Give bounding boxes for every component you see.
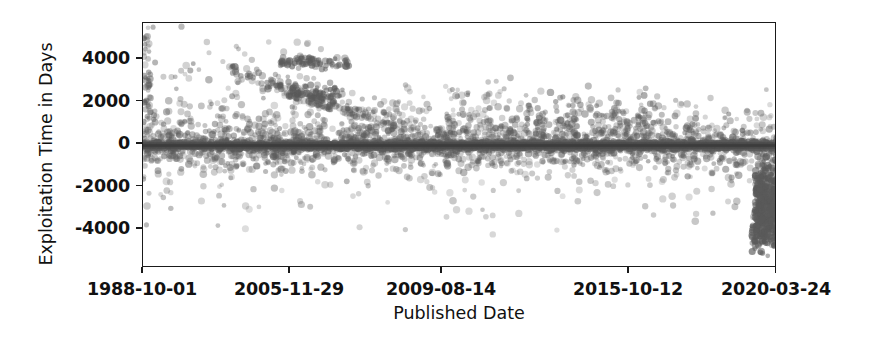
x-tick-label-2020: 2020-03-24 bbox=[721, 279, 831, 299]
plot-area bbox=[142, 22, 776, 267]
y-tick-label-0: 0 bbox=[118, 133, 130, 153]
x-tick-label-2015: 2015-10-12 bbox=[573, 279, 683, 299]
y-tick-label-4000: 4000 bbox=[82, 48, 130, 68]
y-axis-title: Exploitation Time in Days bbox=[36, 14, 56, 294]
chart-page: Exploitation Time in Days 4000 2000 0 -2… bbox=[0, 0, 870, 348]
x-tick-mark-0 bbox=[141, 267, 143, 273]
x-tick-mark-4 bbox=[775, 267, 777, 273]
x-tick-mark-2 bbox=[440, 267, 442, 273]
scatter-points-layer bbox=[143, 23, 776, 267]
x-tick-mark-1 bbox=[288, 267, 290, 273]
y-tick-label-neg4000: -4000 bbox=[75, 218, 130, 238]
x-tick-label-2005: 2005-11-29 bbox=[234, 279, 344, 299]
x-tick-label-1988: 1988-10-01 bbox=[87, 279, 197, 299]
y-tick-label-neg2000: -2000 bbox=[75, 176, 130, 196]
x-tick-label-2009: 2009-08-14 bbox=[386, 279, 496, 299]
x-tick-mark-3 bbox=[627, 267, 629, 273]
x-axis-title: Published Date bbox=[142, 303, 776, 323]
y-tick-label-2000: 2000 bbox=[82, 91, 130, 111]
